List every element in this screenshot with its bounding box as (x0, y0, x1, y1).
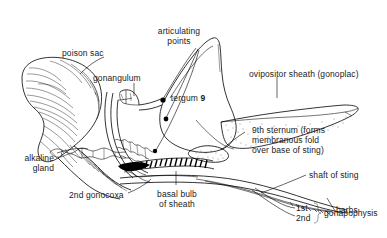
label-gonapophysis: gonapophysis (324, 208, 378, 218)
label-ovipositor-sheath: ovipositor sheath (gonoplac) (249, 69, 359, 79)
label-tergum-text: tergum (171, 93, 201, 103)
label-first-gonapophysis: 1st (296, 203, 308, 213)
label-basal-bulb-line2: of sheath (148, 199, 206, 209)
label-alkaline-gland-line2: gland (6, 163, 54, 173)
label-gonangulum: gonangulum (93, 73, 141, 83)
poison-sac-shape (22, 57, 102, 161)
label-poison-sac: poison sac (62, 48, 104, 58)
gonangulum-shape (118, 90, 162, 110)
label-second-gonapophysis: 2nd (296, 213, 310, 223)
label-tergum-number: 9 (200, 93, 205, 103)
label-ninth-sternum-line2: membranous fold (252, 135, 319, 145)
label-articulating-points-line1: articulating (148, 26, 210, 36)
label-basal-bulb-line1: basal bulb (148, 189, 206, 199)
label-tergum-9: tergum 9 (161, 83, 205, 113)
label-ninth-sternum-line3: over base of sting) (252, 145, 324, 155)
label-ninth-sternum-line1: 9th sternum (forms (252, 125, 325, 135)
label-shaft-of-sting: shaft of sting (309, 170, 359, 180)
label-articulating-points-line2: points (148, 36, 210, 46)
label-alkaline-gland-line1: alkaline (6, 153, 54, 163)
label-second-gonocoxa: 2nd gonocoxa (69, 190, 124, 200)
sting-apparatus-figure: poison sac gonangulum articulating point… (0, 0, 387, 238)
